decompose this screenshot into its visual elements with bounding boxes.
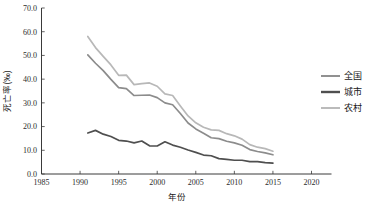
y-tick-label: 60.0 — [23, 28, 37, 37]
x-axis-tick-group: 19851990199520002005201020152020 — [34, 171, 320, 187]
x-tick-label: 2015 — [265, 178, 281, 187]
y-tick-label: 70.0 — [23, 4, 37, 13]
chart-canvas: 0.010.020.030.040.050.060.070.0 19851990… — [0, 0, 376, 209]
series-line-3 — [88, 36, 273, 151]
x-tick-label: 1995 — [111, 178, 127, 187]
y-tick-label: 20.0 — [23, 122, 37, 131]
legend-label-2: 城市 — [344, 86, 362, 97]
legend-label-3: 农村 — [344, 102, 362, 113]
x-tick-label: 2005 — [188, 178, 204, 187]
x-tick-label: 2000 — [149, 178, 165, 187]
chart-legend: 全国城市农村 — [321, 70, 362, 113]
mortality-rate-line-chart: 0.010.020.030.040.050.060.070.0 19851990… — [0, 0, 376, 209]
y-tick-label: 30.0 — [23, 99, 37, 108]
legend-label-1: 全国 — [344, 70, 362, 81]
y-axis-title: 死亡率(‰) — [2, 70, 12, 111]
series-group — [88, 36, 273, 163]
x-axis-title: 年份 — [168, 192, 186, 202]
y-tick-label: 10.0 — [23, 146, 37, 155]
x-tick-label: 1990 — [72, 178, 88, 187]
x-tick-label: 2020 — [304, 178, 320, 187]
x-tick-label: 1985 — [34, 178, 50, 187]
x-tick-label: 2010 — [226, 178, 242, 187]
y-tick-label: 50.0 — [23, 51, 37, 60]
y-tick-label: 40.0 — [23, 75, 37, 84]
